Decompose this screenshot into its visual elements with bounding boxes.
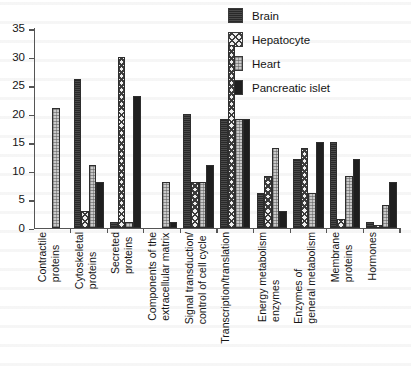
x-axis-label-line: Hormones	[366, 232, 379, 280]
bar-group	[71, 28, 108, 228]
x-axis-label-line: general metabolism	[305, 232, 318, 324]
legend-label-brain: Brain	[252, 10, 279, 22]
x-axis-label-line: Cytoskeletal	[73, 232, 86, 289]
bar-hepatocyte	[264, 176, 272, 227]
y-axis-tick-label: 20	[12, 109, 25, 121]
bar-pancreatic	[133, 96, 141, 227]
bar-pancreatic	[170, 222, 178, 228]
x-axis-label-line: Signal transduction/	[183, 232, 196, 324]
bar-pancreatic	[316, 142, 324, 228]
y-axis-tick-label: 30	[12, 52, 25, 64]
y-axis-tick-label: 35	[12, 24, 25, 36]
x-axis-label: Secretedproteins	[109, 232, 134, 274]
bar-heart	[52, 108, 60, 228]
bar-pancreatic	[279, 211, 287, 228]
bar-heart	[382, 205, 390, 228]
bar-pancreatic	[353, 159, 361, 227]
bar-pancreatic	[206, 165, 214, 228]
x-axis-label: Energy metabolismenzymes	[256, 232, 281, 322]
x-axis-label-line: control of cell cycle	[195, 232, 208, 324]
bar-hepatocyte	[118, 57, 126, 228]
x-axis-label: Cytoskeletalproteins	[73, 232, 98, 289]
bar-brain	[220, 119, 228, 227]
bar-group	[327, 28, 364, 228]
bar-heart	[162, 182, 170, 228]
x-axis-category-labels: ContractileproteinsCytoskeletalproteinsS…	[34, 232, 400, 364]
bar-hepatocyte	[191, 182, 199, 228]
bar-brain	[74, 79, 82, 227]
bar-hepatocyte	[301, 148, 309, 228]
bar-group	[254, 28, 291, 228]
y-axis-tick-label: 0	[19, 223, 25, 235]
bar-pancreatic	[389, 182, 397, 228]
bar-brain	[110, 222, 118, 228]
bar-heart	[89, 165, 97, 228]
x-axis-label: Enzymes ofgeneral metabolism	[292, 232, 317, 324]
x-axis-label-line: extracellular matrix	[158, 232, 171, 321]
bar-brain	[366, 222, 374, 228]
x-axis-label-line: Enzymes of	[292, 232, 305, 324]
bar-heart	[235, 119, 243, 227]
x-axis-label-line: Energy metabolism	[256, 232, 269, 322]
bar-heart	[272, 148, 280, 228]
bar-heart	[308, 193, 316, 227]
bar-brain	[183, 114, 191, 228]
bar-pancreatic	[96, 182, 104, 228]
x-axis-label-line: Components of the	[146, 232, 159, 321]
x-axis-label-line: enzymes	[268, 232, 281, 322]
x-axis-label-line: Secreted	[109, 232, 122, 274]
y-axis-tick-label: 25	[12, 81, 25, 93]
bar-hepatocyte	[81, 211, 89, 228]
legend-item-brain: Brain	[228, 6, 406, 25]
x-axis-label-line: Membrane	[329, 232, 342, 282]
bar-pancreatic	[243, 119, 251, 227]
legend-swatch-brain	[228, 8, 243, 23]
x-axis-label: Membraneproteins	[329, 232, 354, 282]
y-axis-tick-label: 15	[12, 138, 25, 150]
bar-group	[144, 28, 181, 228]
bar-brain	[257, 193, 265, 227]
bar-group	[363, 28, 400, 228]
bar-hepatocyte	[374, 225, 382, 228]
x-axis-label: Components of theextracellular matrix	[146, 232, 171, 321]
bar-group	[180, 28, 217, 228]
bar-brain	[293, 159, 301, 227]
bar-hepatocyte	[228, 45, 236, 227]
bar-heart	[345, 176, 353, 227]
x-axis-label: Hormones	[366, 232, 379, 280]
x-axis-label-line: Contractile	[36, 232, 49, 282]
bar-hepatocyte	[337, 219, 345, 228]
x-axis-label: Contractileproteins	[36, 232, 61, 282]
bar-group	[34, 28, 71, 228]
y-axis-tick-label: 5	[19, 195, 25, 207]
y-axis-tick: 0	[29, 229, 34, 230]
bar-brain	[330, 142, 338, 228]
bar-group	[290, 28, 327, 228]
x-axis-label: Transcription/translation	[219, 232, 232, 344]
bar-group	[107, 28, 144, 228]
bar-heart	[125, 222, 133, 228]
x-axis-label: Signal transduction/control of cell cycl…	[183, 232, 208, 324]
x-axis-label-line: proteins	[49, 232, 62, 282]
bar-heart	[199, 182, 207, 228]
x-axis-label-line: Transcription/translation	[219, 232, 232, 344]
x-axis-label-line: proteins	[85, 232, 98, 289]
bar-group	[217, 28, 254, 228]
plot-area: 05101520253035	[34, 28, 400, 229]
x-axis-label-line: proteins	[122, 232, 135, 274]
grouped-bar-chart: Brain Hepatocyte Heart Pancreatic islet …	[0, 0, 411, 366]
bar-series-container	[34, 28, 400, 228]
y-axis-tick-label: 10	[12, 166, 25, 178]
x-axis-label-line: proteins	[341, 232, 354, 282]
